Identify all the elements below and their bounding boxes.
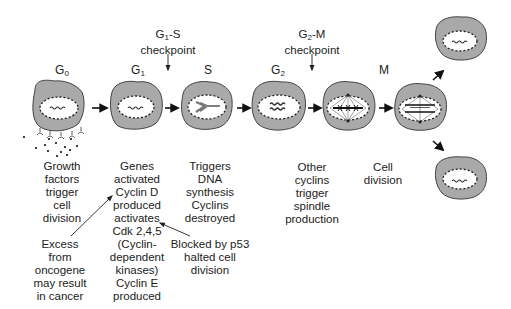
arrow-to-daughter-bottom (433, 141, 443, 150)
annotation-p53: Blocked by p53 halted cell division (170, 238, 250, 277)
cell-anaphase (395, 83, 447, 130)
daughter-cell-top (435, 17, 486, 60)
annotation-oncogene: Excess from oncogene may result in cance… (30, 238, 90, 303)
description-g2: Other cyclins trigger spindle production (282, 161, 342, 226)
phase-label-g2: G2 (268, 63, 288, 81)
description-m: Cell division (358, 161, 408, 187)
checkpoint-label-g2m: G2-M checkpoint (282, 28, 342, 57)
arrow-to-daughter-top (433, 71, 443, 80)
daughter-cell-bottom (435, 157, 486, 199)
description-s: Triggers DNA synthesis Cyclins destroyed (180, 160, 240, 225)
phase-label-g1: G1 (128, 63, 148, 81)
phase-label-g0: G0 (52, 63, 72, 81)
cell-g1 (110, 81, 162, 129)
description-g0: Growth factors trigger cell division (34, 160, 90, 225)
cell-g2 (252, 81, 305, 130)
checkpoint-label-g1s: G1-S checkpoint (138, 28, 198, 57)
cell-s (182, 82, 233, 130)
growth-factor-dots (23, 136, 78, 157)
cell-metaphase (323, 81, 375, 130)
phase-label-s: S (198, 63, 218, 77)
phase-label-m: M (374, 63, 394, 77)
description-g1: Genes activated Cyclin D produced activa… (108, 160, 166, 303)
cell-g0 (23, 80, 84, 157)
